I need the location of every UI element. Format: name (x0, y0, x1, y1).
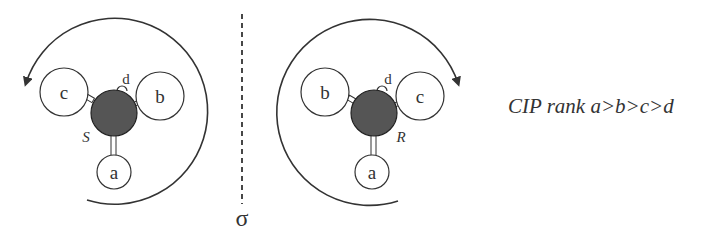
label-c: c (416, 86, 424, 107)
stereocenter-atom (351, 90, 397, 136)
stereocenter-atom (91, 90, 137, 136)
mirror-plane: σ (236, 14, 249, 231)
configuration-label-s: S (82, 129, 90, 145)
label-c: c (60, 82, 68, 103)
left-molecule: c b a d S (26, 18, 208, 204)
label-b: b (155, 86, 165, 107)
cip-rank-caption: CIP rank a>b>c>d (508, 94, 674, 119)
label-d: d (122, 71, 130, 87)
label-a: a (110, 162, 119, 183)
label-d: d (384, 71, 392, 87)
sigma-symbol: σ (236, 205, 249, 231)
enantiomer-diagram: c b a d S σ b c a d R (0, 0, 724, 238)
configuration-label-r: R (395, 129, 405, 145)
label-b: b (320, 82, 330, 103)
right-molecule: b c a d R (277, 19, 458, 205)
label-a: a (368, 162, 377, 183)
